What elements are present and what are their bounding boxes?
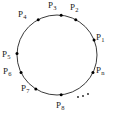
point-label-p6: P6 [3,67,11,76]
ellipsis-dots-group [77,93,89,98]
point-marker-p5 [16,52,19,55]
circle-diagram: P1P2P3P4P5P6P7P8Pn [0,0,117,121]
point-label-pn: Pn [96,66,104,75]
point-marker-p4 [37,18,40,21]
point-marker-p3 [60,14,63,17]
point-label-p4: P4 [18,10,26,19]
point-label-subscript-p1: 1 [101,36,104,43]
point-marker-p2 [74,18,77,21]
point-label-subscript-p4: 4 [23,13,26,20]
point-label-subscript-p6: 6 [8,70,11,77]
point-label-p2: P2 [70,3,78,12]
point-marker-pn [91,71,94,74]
ellipsis-dot-3 [87,93,89,95]
point-label-subscript-p8: 8 [61,104,64,111]
point-label-p5: P5 [2,50,10,59]
ellipsis-dot-2 [82,95,84,97]
point-label-subscript-p5: 5 [7,53,10,60]
point-label-subscript-p3: 3 [53,4,56,11]
point-label-p7: P7 [21,84,29,93]
circle-outline [17,15,97,95]
point-label-subscript-pn: n [101,69,104,76]
ellipsis-dot-1 [77,96,79,98]
point-label-p1: P1 [96,33,104,42]
point-label-p3: P3 [48,1,56,10]
point-label-p8: P8 [56,101,64,110]
point-label-subscript-p2: 2 [75,6,78,13]
point-marker-p7 [34,87,37,90]
point-marker-p6 [20,71,23,74]
point-marker-p8 [60,93,63,96]
point-label-subscript-p7: 7 [26,87,29,94]
